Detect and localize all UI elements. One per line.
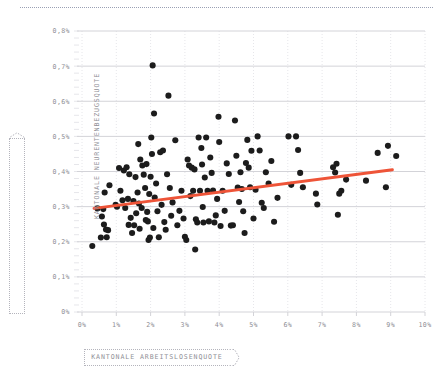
scatter-point — [206, 218, 212, 224]
x-axis-title: KANTONALE ARBEITSLOSENQUOTE — [84, 349, 230, 366]
scatter-point — [250, 216, 256, 222]
scatter-point — [295, 147, 301, 153]
scatter-point — [145, 218, 151, 224]
scatter-point — [163, 227, 169, 233]
scatter-point — [214, 196, 220, 202]
scatter-point — [126, 171, 132, 177]
scatter-point — [168, 213, 174, 219]
scatter-point — [105, 227, 111, 233]
scatter-point — [131, 222, 137, 228]
scatter-point — [237, 169, 243, 175]
scatter-point — [99, 213, 105, 219]
scatter-point — [151, 110, 157, 116]
trend-line — [94, 170, 392, 209]
scatter-point — [257, 147, 263, 153]
scatter-point — [180, 216, 186, 222]
scatter-point — [142, 185, 148, 191]
scatter-point — [363, 178, 369, 184]
scatter-point — [161, 219, 167, 225]
scatter-point — [224, 160, 230, 166]
scatter-point — [135, 141, 141, 147]
y-axis-label-box — [9, 138, 25, 314]
x-tick-label: 4% — [215, 321, 224, 329]
scatter-point — [106, 182, 112, 188]
scatter-point — [117, 188, 123, 194]
trend-line-segment — [94, 170, 392, 209]
scatter-point — [146, 191, 152, 197]
scatter-point — [119, 197, 125, 203]
scatter-point — [274, 195, 280, 201]
scatter-point — [196, 134, 202, 140]
scatter-point — [102, 190, 108, 196]
y-tick-label: 0% — [61, 308, 70, 316]
scatter-point — [233, 153, 239, 159]
scatter-point — [393, 153, 399, 159]
scatter-point — [216, 139, 222, 145]
scatter-point — [129, 230, 135, 236]
scatter-chart-figure: 0%0,1%0,2%0,3%0,4%0,5%0,6%0,7%0,8% 0%1%2… — [0, 0, 447, 377]
scatter-point — [185, 157, 191, 163]
x-tick-label: 1% — [112, 321, 121, 329]
scatter-point — [164, 171, 170, 177]
scatter-point — [230, 222, 236, 228]
scatter-point — [141, 172, 147, 178]
scatter-point — [199, 161, 205, 167]
plot-canvas: 0%0,1%0,2%0,3%0,4%0,5%0,6%0,7%0,8% 0%1%2… — [0, 0, 447, 377]
x-tick-label: 3% — [181, 321, 190, 329]
scatter-point — [137, 157, 143, 163]
scatter-point — [170, 199, 176, 205]
scatter-point — [271, 219, 277, 225]
scatter-point — [211, 219, 217, 225]
scatter-point — [236, 199, 242, 205]
scatter-point — [226, 171, 232, 177]
x-tick-label: 8% — [352, 321, 361, 329]
scatter-point — [150, 62, 156, 68]
scatter-point — [191, 166, 197, 172]
scatter-point — [98, 234, 104, 240]
scatter-point — [150, 225, 156, 231]
y-tick-label: 0,4% — [53, 168, 70, 176]
scatter-point — [89, 243, 95, 249]
scatter-point — [125, 196, 131, 202]
scatter-point — [154, 208, 160, 214]
scatter-point — [147, 234, 153, 240]
scatter-point — [139, 205, 145, 211]
scatter-point — [194, 219, 200, 225]
scatter-point — [293, 133, 299, 139]
scatter-point — [183, 237, 189, 243]
scatter-point — [268, 158, 274, 164]
x-tick-label: 10% — [418, 321, 431, 329]
scatter-point — [192, 246, 198, 252]
scatter-point — [240, 208, 246, 214]
x-axis-label-arrow-icon — [229, 349, 240, 366]
y-tick-label: 0,2% — [53, 238, 70, 246]
scatter-point — [285, 133, 291, 139]
scatter-point — [232, 118, 238, 124]
scatter-point — [144, 209, 150, 215]
scatter-point — [259, 200, 265, 206]
scatter-point — [133, 210, 139, 216]
x-tick-label: 7% — [318, 321, 327, 329]
scatter-point — [176, 208, 182, 214]
scatter-point — [255, 133, 261, 139]
scatter-point — [375, 150, 381, 156]
y-axis-tick-labels: 0%0,1%0,2%0,3%0,4%0,5%0,6%0,7%0,8% — [53, 27, 70, 316]
scatter-point-group — [89, 62, 399, 252]
scatter-point — [156, 234, 162, 240]
scatter-point — [149, 151, 155, 157]
scatter-point — [203, 134, 209, 140]
scatter-point — [300, 184, 306, 190]
scatter-point — [244, 137, 250, 143]
scatter-point — [148, 174, 154, 180]
y-tick-label: 0,1% — [53, 273, 70, 281]
scatter-point — [172, 137, 178, 143]
scatter-point — [148, 134, 154, 140]
scatter-point — [383, 184, 389, 190]
scatter-point — [153, 180, 159, 186]
scatter-point — [332, 170, 338, 176]
x-tick-label: 0% — [78, 321, 87, 329]
x-tick-label: 6% — [283, 321, 292, 329]
scatter-point — [213, 212, 219, 218]
scatter-point — [143, 161, 149, 167]
scatter-point — [297, 170, 303, 176]
